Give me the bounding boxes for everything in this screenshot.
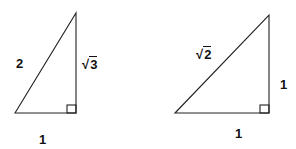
vertical-leg-label-right: 1 bbox=[280, 78, 287, 91]
hypotenuse-label-left: 2 bbox=[16, 57, 23, 70]
radicand: 2 bbox=[203, 46, 211, 62]
hypotenuse-label-right: √2 bbox=[196, 48, 211, 61]
triangles-figure bbox=[0, 0, 296, 149]
right-angle-marker bbox=[67, 105, 76, 113]
radicand: 3 bbox=[89, 56, 97, 72]
triangle-30-60-90 bbox=[15, 13, 76, 113]
right-angle-marker bbox=[260, 105, 269, 113]
vertical-leg-label-left: √3 bbox=[82, 58, 97, 71]
triangle-45-45-90 bbox=[175, 15, 269, 113]
base-label-left: 1 bbox=[39, 133, 46, 146]
base-label-right: 1 bbox=[235, 127, 242, 140]
